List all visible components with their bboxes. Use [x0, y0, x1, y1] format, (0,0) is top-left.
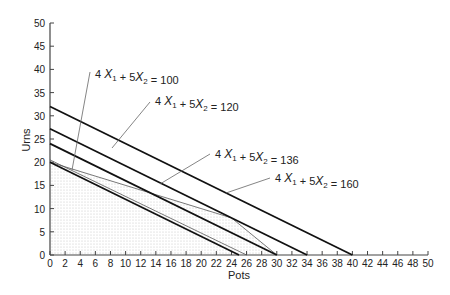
y-tick-label: 20: [34, 157, 46, 168]
x-tick-label: 22: [211, 258, 223, 269]
x-tick-label: 48: [407, 258, 419, 269]
plot-area: 0246810121416182022242628303234363840424…: [34, 18, 434, 269]
x-tick-label: 36: [317, 258, 329, 269]
x-tick-label: 2: [62, 258, 68, 269]
x-tick-label: 28: [256, 258, 268, 269]
callout-leader: [72, 72, 90, 170]
y-tick-label: 50: [34, 18, 46, 29]
equation-label: 4 X1 + 5X2 = 100: [95, 67, 179, 86]
x-tick-label: 4: [77, 258, 83, 269]
x-tick-label: 6: [93, 258, 99, 269]
x-tick-label: 18: [181, 258, 193, 269]
x-tick-label: 20: [196, 258, 208, 269]
y-tick-label: 15: [34, 180, 46, 191]
y-tick-label: 10: [34, 204, 46, 215]
y-tick-label: 0: [39, 250, 45, 261]
chart: 0246810121416182022242628303234363840424…: [0, 0, 450, 295]
x-tick-label: 50: [422, 258, 434, 269]
y-tick-label: 25: [34, 134, 46, 145]
y-tick-label: 35: [34, 88, 46, 99]
x-tick-label: 26: [241, 258, 253, 269]
y-tick-label: 5: [39, 227, 45, 238]
x-tick-label: 38: [332, 258, 344, 269]
x-tick-label: 46: [392, 258, 404, 269]
x-tick-label: 32: [286, 258, 298, 269]
y-tick-label: 45: [34, 41, 46, 52]
equation-label: 4 X1 + 5X2 = 160: [275, 171, 359, 190]
x-axis-label: Pots: [228, 269, 251, 281]
x-tick-label: 0: [47, 258, 53, 269]
x-tick-label: 44: [377, 258, 389, 269]
x-tick-label: 14: [150, 258, 162, 269]
y-tick-label: 30: [34, 111, 46, 122]
callout-leader: [112, 102, 150, 148]
equation-label: 4 X1 + 5X2 = 136: [215, 147, 299, 166]
equation-label: 4 X1 + 5X2 = 120: [155, 94, 239, 113]
x-tick-label: 8: [108, 258, 114, 269]
x-tick-label: 16: [165, 258, 177, 269]
x-tick-label: 24: [226, 258, 238, 269]
x-tick-label: 10: [120, 258, 132, 269]
x-tick-label: 42: [362, 258, 374, 269]
x-tick-label: 40: [347, 258, 359, 269]
x-tick-label: 30: [271, 258, 283, 269]
callout-leader: [160, 154, 210, 184]
callout-leader: [226, 178, 270, 193]
y-tick-label: 40: [34, 64, 46, 75]
x-tick-label: 12: [135, 258, 147, 269]
y-axis-label: Urns: [20, 128, 32, 152]
x-tick-label: 34: [301, 258, 313, 269]
